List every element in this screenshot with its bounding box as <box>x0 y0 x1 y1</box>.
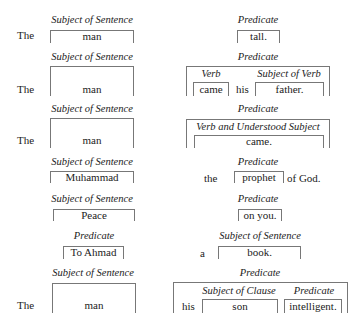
subject-word: Muhammad <box>50 171 134 183</box>
pre-word: a <box>200 247 205 259</box>
subject-of-clause-label: Subject of Clause <box>200 285 278 297</box>
connector-word: his <box>236 83 249 95</box>
predicate-label: Predicate <box>64 230 124 242</box>
subject-word: man <box>52 299 136 311</box>
clause-predicate-label: Predicate <box>286 285 342 297</box>
subject-label: Subject of Sentence <box>50 156 134 168</box>
verb-word: came <box>193 83 229 95</box>
article: The <box>17 29 34 41</box>
subject-label: Subject of Sentence <box>50 193 134 205</box>
subject-of-verb-label: Subject of Verb <box>253 68 325 80</box>
predicate-word: on you. <box>238 209 282 221</box>
predicate-label: Predicate <box>230 51 286 63</box>
predicate-label: Predicate <box>232 267 288 279</box>
article: The <box>17 134 34 146</box>
subject-label: Subject of Sentence <box>50 267 136 279</box>
subject-label: Subject of Sentence <box>50 14 134 26</box>
predicate-word: To Ahmad <box>63 246 124 258</box>
post-word: of God. <box>287 172 321 184</box>
predicate-word: tall. <box>237 30 280 42</box>
subject-label: Subject of Sentence <box>218 230 302 242</box>
verb-label: Verb <box>193 68 229 80</box>
verb-word: came. <box>194 135 324 147</box>
verb-understood-subject-label: Verb and Understood Subject <box>186 121 330 133</box>
predicate-label: Predicate <box>230 156 286 168</box>
clause-subject-word: son <box>202 300 278 312</box>
pre-word: the <box>204 172 217 184</box>
article: The <box>17 83 34 95</box>
subject-label: Subject of Sentence <box>50 103 134 115</box>
article: The <box>17 299 34 311</box>
subject-word: man <box>50 83 134 95</box>
verb-subject-word: father. <box>255 83 324 95</box>
predicate-label: Predicate <box>230 103 286 115</box>
subject-word: book. <box>218 246 301 258</box>
predicate-label: Predicate <box>230 14 286 26</box>
subject-word: man <box>50 30 134 42</box>
clause-predicate-word: intelligent. <box>284 300 342 312</box>
predicate-word: prophet <box>234 171 284 183</box>
subject-word: man <box>50 134 134 146</box>
subject-label: Subject of Sentence <box>50 51 134 63</box>
predicate-label: Predicate <box>230 193 286 205</box>
subject-word: Peace <box>53 209 135 221</box>
connector-word: his <box>182 300 195 312</box>
